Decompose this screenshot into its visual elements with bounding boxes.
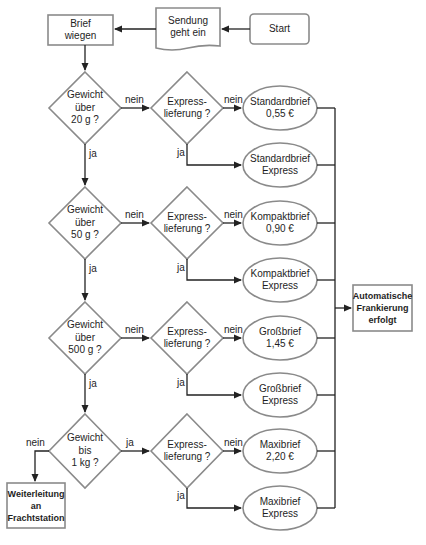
- express3-label: Express- lieferung ?: [152, 325, 222, 351]
- kompakt-express-label: Kompaktbrief Express: [243, 267, 317, 293]
- edge-ja-4: ja: [177, 262, 185, 273]
- express2-label: Express- lieferung ?: [152, 210, 222, 236]
- wiegen-label: Brief wiegen: [48, 15, 113, 45]
- auto-frankierung-label: Automatische Frankierung erfolgt: [353, 285, 412, 331]
- maxi-express-label: Maxibrief Express: [243, 495, 317, 521]
- standard-express-label: Standardbrief Express: [243, 152, 317, 178]
- edge-nein-4: nein: [224, 209, 243, 220]
- sendung-label: Sendung geht ein: [156, 8, 220, 46]
- gew20-label: Gewicht über 20 g ?: [55, 85, 115, 131]
- edge-ja-5: ja: [89, 378, 97, 389]
- edge-nein-6: nein: [224, 324, 243, 335]
- edge-ja-7: ja: [126, 437, 134, 448]
- edge-nein-8: nein: [224, 437, 243, 448]
- express4-label: Express- lieferung ?: [152, 438, 222, 464]
- edge-ja-3: ja: [89, 263, 97, 274]
- edge-nein-5: nein: [125, 324, 144, 335]
- edge-nein-3: nein: [125, 209, 144, 220]
- gross-express-label: Großbrief Express: [243, 382, 317, 408]
- edge-nein-7: nein: [26, 437, 45, 448]
- kompakt-label: Kompaktbrief 0,90 €: [243, 210, 317, 236]
- gew50-label: Gewicht über 50 g ?: [55, 200, 115, 246]
- edge-nein-1: nein: [125, 94, 144, 105]
- maxi-label: Maxibrief 2,20 €: [243, 438, 317, 464]
- gross-label: Großbrief 1,45 €: [243, 325, 317, 351]
- express1-label: Express- lieferung ?: [152, 95, 222, 121]
- edge-ja-1: ja: [89, 148, 97, 159]
- edge-ja-8: ja: [177, 490, 185, 501]
- edge-ja-2: ja: [177, 147, 185, 158]
- gew500-label: Gewicht über 500 g ?: [55, 315, 115, 361]
- edge-ja-6: ja: [177, 377, 185, 388]
- start-label: Start: [250, 14, 309, 44]
- standard-label: Standardbrief 0,55 €: [243, 95, 317, 121]
- edge-nein-2: nein: [224, 94, 243, 105]
- frachtstation-label: Weiterleitung an Frachtstation: [7, 483, 65, 528]
- gew1kg-label: Gewicht bis 1 kg ?: [55, 428, 115, 474]
